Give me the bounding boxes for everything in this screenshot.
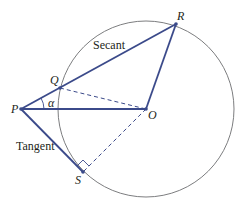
label-Q: Q [50,73,59,87]
right-angle-marker [77,160,89,166]
label-secant: Secant [93,38,126,52]
segment-OS-dashed [83,109,146,172]
angle-arc-alpha [41,98,44,109]
secant-line-PR [21,24,176,109]
label-P: P [10,102,19,116]
point-S [81,170,85,174]
label-tangent: Tangent [16,139,55,153]
label-alpha: α [48,96,55,110]
label-S: S [75,173,81,187]
point-P [19,107,23,111]
label-O: O [148,108,157,122]
segment-QO-dashed [60,88,146,109]
segment-OR [146,24,176,109]
label-R: R [176,9,185,23]
point-Q [58,86,62,90]
secant-tangent-diagram: P Q R O S α Secant Tangent [0,0,243,209]
